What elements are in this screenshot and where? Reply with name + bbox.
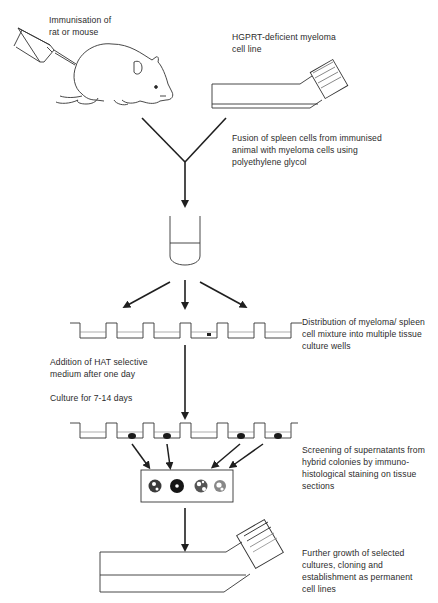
screening-arrows (132, 444, 263, 466)
screening-label: Screening of supernatants from hybrid co… (302, 444, 425, 492)
stained-section-2 (170, 479, 184, 493)
well-plate-icon (70, 323, 298, 338)
stained-section-3 (195, 480, 208, 493)
stained-section-4 (214, 480, 226, 492)
hat-label: Addition of HAT selective medium after o… (50, 356, 148, 380)
stained-section-1 (149, 480, 162, 493)
rat-icon (56, 44, 173, 105)
myeloma-label: HGPRT-deficient myeloma cell line (232, 31, 336, 55)
tissue-section-slide-icon (141, 470, 233, 502)
immunisation-label: Immunisation of rat or mouse (49, 14, 111, 38)
distribution-arrows (126, 280, 244, 306)
culture-flask-icon (212, 60, 348, 108)
distribution-label: Distribution of myeloma/ spleen cell mix… (302, 316, 425, 352)
hybridoma-diagram (0, 0, 438, 603)
test-tube-icon (170, 216, 200, 265)
culture-flask-icon (100, 520, 283, 592)
culture-label: Culture for 7-14 days (50, 392, 132, 404)
fusion-arrow (142, 118, 226, 204)
well-plate-icon (70, 423, 298, 439)
fusion-label: Fusion of spleen cells from immunised an… (232, 132, 382, 168)
growth-label: Further growth of selected cultures, clo… (302, 547, 413, 595)
